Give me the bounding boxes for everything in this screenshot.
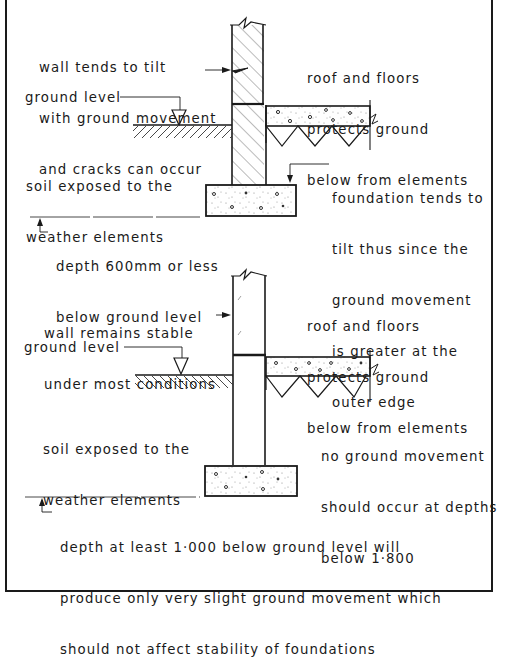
label-line: under most conditions bbox=[44, 376, 216, 393]
label-line: soil exposed to the bbox=[26, 178, 173, 195]
top-wall bbox=[230, 18, 266, 185]
label-line: no ground movement bbox=[321, 448, 498, 465]
label-line: protects ground bbox=[307, 121, 468, 138]
bottom-footing bbox=[205, 466, 297, 496]
top-footing bbox=[206, 185, 296, 216]
bottom-ground-level-label: ground level bbox=[24, 339, 120, 356]
label-line: roof and floors bbox=[307, 70, 468, 87]
label-line: wall tends to tilt bbox=[39, 59, 217, 76]
label-line: roof and floors bbox=[307, 318, 468, 335]
label-line: should not affect stability of foundatio… bbox=[60, 641, 442, 658]
bottom-depth-label: depth at least 1·000 below ground level … bbox=[60, 505, 442, 661]
label-line: tilt thus since the bbox=[332, 241, 484, 258]
label-line: protects ground bbox=[307, 369, 468, 386]
label-line: depth at least 1·000 below ground level … bbox=[60, 539, 442, 556]
top-ground-level-label: ground level bbox=[25, 89, 121, 106]
label-line: with ground movement bbox=[39, 110, 217, 127]
label-line: soil exposed to the bbox=[43, 441, 190, 458]
label-line: depth 600mm or less bbox=[56, 258, 219, 275]
label-line: foundation tends to bbox=[332, 190, 484, 207]
label-line: produce only very slight ground movement… bbox=[60, 590, 442, 607]
bottom-wall bbox=[231, 270, 267, 465]
